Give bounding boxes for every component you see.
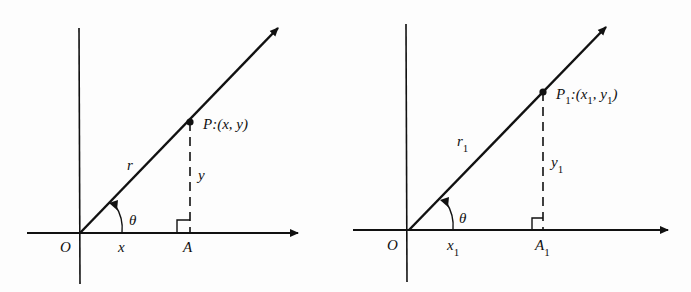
angle-label: θ [129, 212, 137, 228]
origin-label: O [387, 237, 398, 253]
point-label: P1:(x1, y1) [555, 86, 618, 106]
figure-subscripted: P1:(x1, y1) r1 y1 θ O x1 A1 [353, 24, 668, 282]
x-label: x [117, 239, 125, 255]
radius-label: r1 [457, 133, 468, 154]
point-label: P:(x, y) [202, 116, 248, 133]
foot-label: A1 [534, 237, 550, 258]
angle-arc-icon [446, 202, 453, 230]
y-label: y1 [549, 154, 563, 175]
y-axis [406, 24, 407, 282]
ray-r1 [409, 27, 606, 230]
foot-label: A [182, 239, 193, 255]
right-angle-mark [177, 220, 190, 233]
angle-arc-icon [115, 205, 122, 233]
radius-label: r [127, 157, 133, 173]
point-p [186, 118, 193, 125]
ray-r [80, 28, 278, 233]
angle-arrowhead-icon [440, 197, 449, 207]
figure-general: P:(x, y) r y θ O x A [27, 28, 298, 284]
x-label: x1 [446, 237, 459, 258]
right-angle-mark [532, 218, 543, 230]
origin-label: O [60, 239, 71, 255]
y-axis [79, 28, 80, 284]
angle-label: θ [459, 210, 467, 226]
y-label: y [196, 167, 205, 183]
diagram-canvas: P:(x, y) r y θ O x A P1:(x1, y1) r1 y1 θ… [0, 0, 691, 292]
point-p1 [539, 88, 546, 95]
